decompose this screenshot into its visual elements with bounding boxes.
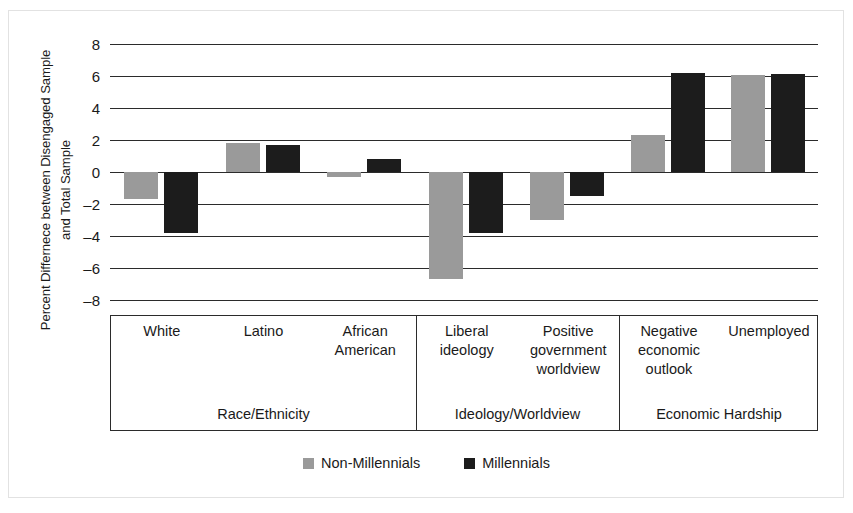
bar	[429, 172, 463, 279]
bar	[570, 172, 604, 196]
chart-legend: Non-MillennialsMillennials	[0, 455, 853, 471]
category-label: Positivegovernmentworldview	[518, 322, 620, 379]
plot-area	[110, 44, 818, 300]
bar	[367, 159, 401, 172]
chart-figure: Percent Differnece between Disengaged Sa…	[0, 0, 853, 513]
y-axis-tick-label: 6	[58, 69, 100, 84]
gridline	[110, 236, 818, 237]
bar	[164, 172, 198, 233]
y-axis-tick-label: 4	[58, 101, 100, 116]
category-label-line: economic	[638, 342, 700, 358]
gridline	[110, 76, 818, 77]
gridline	[110, 204, 818, 205]
y-axis-tick-label: 8	[58, 37, 100, 52]
y-axis-tick-label: 2	[58, 133, 100, 148]
gridline	[110, 268, 818, 269]
y-axis-tick-label: –2	[58, 197, 100, 212]
bar	[266, 145, 300, 172]
legend-item[interactable]: Non-Millennials	[303, 455, 420, 471]
gridline	[110, 140, 818, 141]
y-axis-tick-label: 0	[58, 165, 100, 180]
legend-label: Millennials	[482, 455, 550, 471]
group-label: Economic Hardship	[619, 405, 819, 424]
group-label: Race/Ethnicity	[111, 405, 416, 424]
y-axis-tick-labels: 86420–2–4–6–8	[58, 0, 100, 320]
category-table: WhiteLatinoAfricanAmericanLiberalideolog…	[110, 315, 818, 431]
category-label-line: outlook	[646, 361, 693, 377]
bar	[631, 135, 665, 172]
y-axis-tick-label: –4	[58, 229, 100, 244]
category-label-line: government	[530, 342, 607, 358]
y-axis-tick-label: –6	[58, 261, 100, 276]
gridline	[110, 172, 818, 173]
category-label-line: Positive	[543, 323, 594, 339]
category-label: Unemployed	[719, 322, 819, 341]
category-label-line: Negative	[640, 323, 697, 339]
category-label-line: ideology	[440, 342, 494, 358]
bar	[671, 73, 705, 172]
bar	[530, 172, 564, 220]
category-label: White	[111, 322, 213, 341]
category-label-line: American	[335, 342, 396, 358]
legend-item[interactable]: Millennials	[464, 455, 550, 471]
category-label-line: worldview	[536, 361, 600, 377]
bar	[771, 74, 805, 172]
legend-swatch-icon	[464, 458, 475, 469]
gridline	[110, 108, 818, 109]
category-label: Negativeeconomicoutlook	[619, 322, 719, 379]
category-label-line: African	[343, 323, 388, 339]
category-label-line: Unemployed	[728, 323, 809, 339]
category-label: Latino	[213, 322, 315, 341]
bar	[731, 75, 765, 172]
bar	[469, 172, 503, 233]
gridline	[110, 44, 818, 45]
bar	[124, 172, 158, 199]
gridline	[110, 300, 818, 301]
category-label: AfricanAmerican	[314, 322, 416, 360]
category-label: Liberalideology	[416, 322, 518, 360]
legend-swatch-icon	[303, 458, 314, 469]
group-label: Ideology/Worldview	[416, 405, 619, 424]
category-label-line: White	[143, 323, 180, 339]
bar	[327, 172, 361, 177]
legend-label: Non-Millennials	[321, 455, 420, 471]
y-axis-tick-label: –8	[58, 293, 100, 308]
category-label-line: Latino	[244, 323, 284, 339]
bar	[226, 143, 260, 172]
category-label-line: Liberal	[445, 323, 489, 339]
